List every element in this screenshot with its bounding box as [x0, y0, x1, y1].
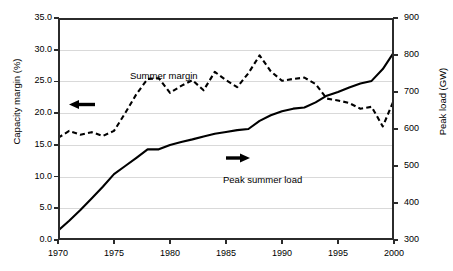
x-tick-label: 1980 [150, 248, 190, 258]
left-tick-mark [54, 176, 59, 178]
right-tick-label: 300 [404, 234, 438, 244]
left-tick-label: 35.0 [18, 12, 52, 22]
capacity-margin-peak-load-chart: Capacity margin (%) Peak load (GW) 0.05.… [0, 0, 453, 271]
left-tick-mark [54, 81, 59, 83]
x-tick-mark [113, 239, 115, 244]
x-tick-mark [225, 239, 227, 244]
right-tick-label: 500 [404, 160, 438, 170]
x-tick-mark [337, 239, 339, 244]
x-tick-label: 1985 [206, 248, 246, 258]
summer-margin-arrow-icon [69, 100, 95, 109]
left-tick-mark [54, 112, 59, 114]
left-tick-mark [54, 207, 59, 209]
right-tick-mark [393, 91, 398, 93]
x-tick-label: 1975 [94, 248, 134, 258]
left-tick-mark [54, 17, 59, 19]
summer-margin-label: Summer margin [130, 70, 198, 81]
x-tick-label: 1970 [38, 248, 78, 258]
right-tick-label: 900 [404, 12, 438, 22]
left-tick-label: 30.0 [18, 44, 52, 54]
right-tick-mark [393, 128, 398, 130]
x-tick-label: 2000 [374, 248, 414, 258]
left-tick-label: 20.0 [18, 107, 52, 117]
left-tick-label: 10.0 [18, 171, 52, 181]
x-tick-mark [281, 239, 283, 244]
right-tick-label: 700 [404, 86, 438, 96]
x-tick-mark [169, 239, 171, 244]
x-tick-mark [57, 239, 59, 244]
annotation-arrows [58, 18, 394, 240]
right-tick-label: 800 [404, 49, 438, 59]
axis-top-line [58, 18, 394, 20]
right-tick-mark [393, 54, 398, 56]
peak-summer-load-label: Peak summer load [223, 174, 302, 185]
peak-summer-load-arrow-icon [226, 154, 250, 163]
left-tick-mark [54, 144, 59, 146]
right-tick-mark [393, 202, 398, 204]
right-tick-mark [393, 165, 398, 167]
plot-area: Summer margin Peak summer load [58, 18, 394, 240]
left-tick-label: 0.0 [18, 234, 52, 244]
x-tick-label: 1995 [318, 248, 358, 258]
left-tick-label: 25.0 [18, 75, 52, 85]
left-tick-mark [54, 49, 59, 51]
right-tick-mark [393, 17, 398, 19]
left-tick-label: 15.0 [18, 139, 52, 149]
left-axis-title: Capacity margin (%) [11, 52, 22, 152]
right-tick-label: 400 [404, 197, 438, 207]
right-tick-label: 600 [404, 123, 438, 133]
x-tick-mark [393, 239, 395, 244]
left-tick-label: 5.0 [18, 202, 52, 212]
x-tick-label: 1990 [262, 248, 302, 258]
right-axis-title: Peak load (GW) [437, 52, 448, 152]
